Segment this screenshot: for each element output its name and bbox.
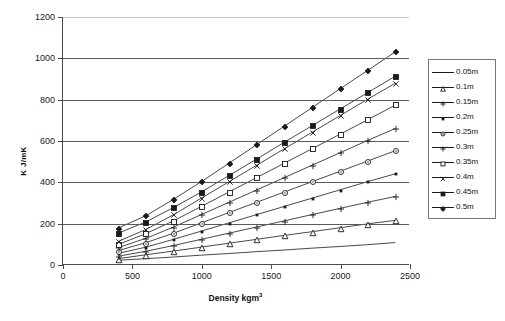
x-tick-label-500: 500 — [125, 271, 140, 281]
legend-marker-icon — [432, 141, 454, 153]
x-tick-label-0: 0 — [60, 271, 65, 281]
data-point-marker — [254, 175, 261, 182]
data-point-marker — [254, 224, 261, 231]
legend-marker-icon — [432, 96, 454, 108]
chart-container: K J/mK 020040060080010001200050010001500… — [0, 0, 505, 321]
data-point-marker — [254, 237, 261, 244]
data-point-marker — [254, 187, 261, 194]
data-point-marker — [198, 220, 205, 227]
data-point-marker — [393, 126, 400, 133]
gridline-y-800 — [63, 100, 409, 101]
legend-label: 0.1m — [456, 82, 474, 91]
data-point-marker — [393, 73, 400, 80]
data-point-marker — [198, 204, 205, 211]
data-point-marker — [309, 212, 316, 219]
data-point-marker — [309, 162, 316, 169]
y-axis-title: K J/mK — [19, 146, 28, 175]
data-point-marker — [393, 80, 400, 87]
x-tick-2500 — [410, 264, 411, 269]
data-point-marker — [282, 189, 289, 196]
data-point-marker — [226, 189, 233, 196]
legend-item-0.5m[interactable]: 0.5m — [432, 199, 493, 214]
legend-label: 0.05m — [456, 67, 478, 76]
y-tick-label-1000: 1000 — [35, 53, 55, 63]
data-point-marker — [143, 219, 150, 226]
data-point-marker — [226, 231, 233, 238]
data-point-marker — [393, 49, 400, 56]
data-point-marker — [226, 241, 233, 248]
legend-label: 0.5m — [456, 202, 474, 211]
data-point-marker — [226, 179, 233, 186]
x-axis-title: Density kgm3 — [62, 292, 409, 303]
x-tick-label-2500: 2500 — [400, 271, 420, 281]
x-tick-500 — [132, 264, 133, 269]
data-point-marker — [309, 195, 316, 202]
data-point-marker — [198, 228, 205, 235]
data-point-marker — [365, 90, 372, 97]
data-point-marker — [393, 194, 400, 201]
data-point-marker — [365, 179, 372, 186]
legend-label: 0.35m — [456, 157, 478, 166]
legend-marker-icon — [432, 186, 454, 198]
data-point-marker — [171, 243, 178, 250]
data-point-marker — [226, 210, 233, 217]
data-point-marker — [309, 146, 316, 153]
data-point-marker — [337, 113, 344, 120]
y-tick-400 — [58, 182, 63, 183]
data-point-marker — [282, 175, 289, 182]
data-point-marker — [226, 173, 233, 180]
legend-label: 0.45m — [456, 187, 478, 196]
data-point-marker — [365, 200, 372, 207]
plot-area: 0200400600800100012000500100015002000250… — [62, 17, 409, 265]
data-point-marker — [365, 96, 372, 103]
y-tick-label-400: 400 — [40, 177, 55, 187]
data-point-marker — [337, 150, 344, 157]
data-point-marker — [365, 158, 372, 165]
x-axis-title-main: Density kgm — [209, 293, 260, 303]
data-point-marker — [337, 187, 344, 194]
data-point-marker — [393, 218, 400, 225]
data-point-marker — [171, 224, 178, 231]
data-point-marker — [254, 212, 261, 219]
data-point-marker — [282, 139, 289, 146]
data-point-marker — [143, 213, 150, 220]
gridline-y-1000 — [63, 58, 409, 59]
data-point-marker — [198, 237, 205, 244]
y-tick-label-800: 800 — [40, 95, 55, 105]
y-tick-1200 — [58, 17, 63, 18]
y-tick-1000 — [58, 58, 63, 59]
legend[interactable]: 0.05m0.1m0.15m0.2m0.25m0.3m0.35m0.4m0.45… — [428, 59, 496, 219]
x-tick-label-1500: 1500 — [261, 271, 281, 281]
data-point-marker — [254, 156, 261, 163]
data-point-marker — [393, 148, 400, 155]
data-point-marker — [309, 104, 316, 111]
x-tick-label-2000: 2000 — [331, 271, 351, 281]
legend-marker-icon — [432, 81, 454, 93]
data-point-marker — [337, 206, 344, 213]
x-tick-1000 — [202, 264, 203, 269]
data-point-marker — [198, 245, 205, 252]
legend-label: 0.4m — [456, 172, 474, 181]
data-point-marker — [226, 220, 233, 227]
x-tick-0 — [63, 264, 64, 269]
data-point-marker — [198, 179, 205, 186]
x-axis-title-superscript: 3 — [259, 292, 262, 298]
data-point-marker — [365, 67, 372, 74]
data-point-marker — [254, 162, 261, 169]
legend-marker-icon — [432, 126, 454, 138]
data-point-marker — [171, 196, 178, 203]
data-point-marker — [171, 212, 178, 219]
legend-marker-icon — [432, 171, 454, 183]
data-point-marker — [365, 221, 372, 228]
x-tick-label-1000: 1000 — [192, 271, 212, 281]
data-point-marker — [282, 123, 289, 130]
legend-marker-icon — [432, 111, 454, 123]
y-tick-800 — [58, 100, 63, 101]
data-point-marker — [337, 225, 344, 232]
data-point-marker — [309, 129, 316, 136]
legend-label: 0.3m — [456, 142, 474, 151]
data-point-marker — [393, 171, 400, 178]
data-point-marker — [337, 131, 344, 138]
data-point-marker — [337, 106, 344, 113]
data-point-marker — [337, 86, 344, 93]
